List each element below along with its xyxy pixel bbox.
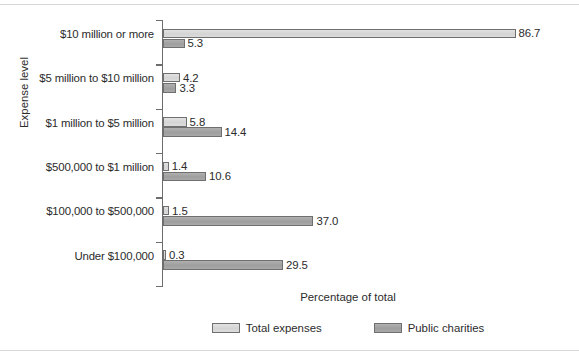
- bar-value-label: 29.5: [286, 259, 308, 271]
- category-row: Under $100,0000.329.5: [163, 242, 533, 286]
- y-axis-tick: [156, 109, 163, 110]
- bar-value-label: 5.8: [190, 116, 206, 128]
- x-axis-title: Percentage of total: [163, 291, 533, 303]
- plot-area: $10 million or more86.75.3$5 million to …: [163, 20, 533, 286]
- legend-swatch-total-expenses: [212, 323, 240, 333]
- bar-total: 1.4: [163, 162, 169, 172]
- category-label: Under $100,000: [74, 250, 154, 262]
- bar-value-label: 5.3: [188, 37, 204, 49]
- legend-item-public-charities: Public charities: [374, 322, 485, 334]
- bar-total: 0.3: [163, 250, 166, 260]
- y-axis-tick: [156, 64, 163, 65]
- category-row: $10 million or more86.75.3: [163, 20, 533, 64]
- bar-value-label: 14.4: [225, 126, 247, 138]
- bar-value-label: 1.4: [172, 160, 188, 172]
- y-axis-tick: [156, 242, 163, 243]
- bar-value-label: 0.3: [169, 249, 185, 261]
- category-label: $100,000 to $500,000: [46, 205, 154, 217]
- bar-value-label: 1.5: [172, 205, 188, 217]
- category-row: $500,000 to $1 million1.410.6: [163, 153, 533, 197]
- bar-charity: 3.3: [163, 83, 176, 93]
- figure-bottom-rule: [0, 350, 579, 351]
- chart-legend: Total expenses Public charities: [163, 322, 533, 334]
- y-axis-tick: [156, 197, 163, 198]
- bar-charity: 29.5: [163, 260, 283, 270]
- legend-label-public-charities: Public charities: [408, 322, 485, 334]
- y-axis-tick: [156, 20, 163, 21]
- category-label: $10 million or more: [60, 28, 154, 40]
- bar-total: 4.2: [163, 73, 180, 83]
- category-row: $1 million to $5 million5.814.4: [163, 109, 533, 153]
- bar-charity: 14.4: [163, 127, 222, 137]
- legend-swatch-public-charities: [374, 323, 402, 333]
- bar-charity: 10.6: [163, 172, 206, 182]
- y-axis-tick-end: [156, 286, 163, 287]
- legend-label-total-expenses: Total expenses: [246, 322, 322, 334]
- bar-total: 86.7: [163, 29, 516, 39]
- expense-level-bar-chart: $10 million or more86.75.3$5 million to …: [0, 0, 579, 362]
- y-axis-title: Expense level: [18, 57, 30, 128]
- bar-total: 1.5: [163, 206, 169, 216]
- bar-total: 5.8: [163, 117, 187, 127]
- figure-top-rule: [0, 4, 579, 5]
- category-label: $1 million to $5 million: [46, 117, 154, 129]
- category-row: $100,000 to $500,0001.537.0: [163, 197, 533, 241]
- bar-value-label: 10.6: [209, 170, 231, 182]
- category-label: $5 million to $10 million: [39, 72, 154, 84]
- bar-charity: 37.0: [163, 216, 313, 226]
- bar-charity: 5.3: [163, 39, 185, 49]
- legend-item-total-expenses: Total expenses: [212, 322, 322, 334]
- category-label: $500,000 to $1 million: [46, 161, 154, 173]
- y-axis-tick: [156, 153, 163, 154]
- bar-value-label: 37.0: [316, 215, 338, 227]
- bar-value-label: 86.7: [519, 27, 541, 39]
- bar-value-label: 3.3: [179, 82, 195, 94]
- category-row: $5 million to $10 million4.23.3: [163, 64, 533, 108]
